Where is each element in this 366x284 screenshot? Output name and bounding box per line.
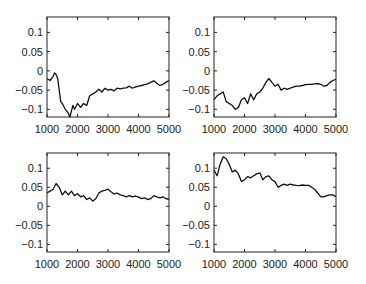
x-tick-label: 2000 bbox=[65, 258, 89, 270]
axes-frame bbox=[47, 17, 169, 117]
x-tick-label: 3000 bbox=[263, 258, 287, 270]
y-tick-label: −0.05 bbox=[15, 84, 43, 96]
y-tick-label: 0.05 bbox=[189, 181, 210, 193]
axes-frame bbox=[47, 153, 169, 252]
x-tick-label: 5000 bbox=[157, 123, 181, 135]
series-line bbox=[214, 157, 336, 197]
x-tick-label: 3000 bbox=[263, 123, 287, 135]
y-tick-label: 0.1 bbox=[195, 162, 210, 174]
y-tick-label: −0.05 bbox=[15, 219, 43, 231]
x-tick-label: 1000 bbox=[35, 123, 59, 135]
y-tick-label: −0.1 bbox=[188, 103, 210, 115]
subplot-top-left: 100020003000400050000.10.050−0.05−0.1 bbox=[15, 17, 181, 135]
y-tick-label: −0.1 bbox=[188, 238, 210, 250]
y-tick-label: 0 bbox=[37, 65, 43, 77]
x-tick-label: 3000 bbox=[96, 258, 120, 270]
axes-frame bbox=[214, 153, 336, 252]
x-tick-label: 4000 bbox=[293, 258, 317, 270]
x-tick-label: 1000 bbox=[35, 258, 59, 270]
y-tick-label: 0.05 bbox=[22, 181, 43, 193]
subplot-top-right: 100020003000400050000.10.050−0.05−0.1 bbox=[182, 17, 348, 135]
y-tick-label: −0.1 bbox=[21, 238, 43, 250]
x-tick-label: 1000 bbox=[202, 258, 226, 270]
y-tick-label: −0.1 bbox=[21, 103, 43, 115]
x-tick-label: 2000 bbox=[65, 123, 89, 135]
figure: 100020003000400050000.10.050−0.05−0.1 10… bbox=[0, 0, 366, 284]
y-tick-label: 0 bbox=[204, 65, 210, 77]
x-tick-label: 2000 bbox=[232, 258, 256, 270]
x-tick-label: 5000 bbox=[324, 258, 348, 270]
y-tick-label: 0 bbox=[37, 200, 43, 212]
x-tick-label: 1000 bbox=[202, 123, 226, 135]
axes-frame bbox=[214, 17, 336, 117]
y-tick-label: 0.1 bbox=[195, 26, 210, 38]
subplot-bottom-left: 100020003000400050000.10.050−0.05−0.1 bbox=[15, 153, 181, 270]
x-tick-label: 5000 bbox=[324, 123, 348, 135]
x-tick-label: 2000 bbox=[232, 123, 256, 135]
y-tick-label: 0.1 bbox=[28, 162, 43, 174]
series-line bbox=[47, 184, 169, 202]
y-tick-label: 0 bbox=[204, 200, 210, 212]
y-tick-label: 0.05 bbox=[189, 46, 210, 58]
x-tick-label: 5000 bbox=[157, 258, 181, 270]
y-tick-label: 0.05 bbox=[22, 46, 43, 58]
x-tick-label: 3000 bbox=[96, 123, 120, 135]
subplot-bottom-right: 100020003000400050000.10.050−0.05−0.1 bbox=[182, 153, 348, 270]
series-line bbox=[47, 73, 169, 117]
x-tick-label: 4000 bbox=[126, 258, 150, 270]
y-tick-label: −0.05 bbox=[182, 84, 210, 96]
y-tick-label: 0.1 bbox=[28, 26, 43, 38]
series-line bbox=[214, 79, 336, 110]
x-tick-label: 4000 bbox=[126, 123, 150, 135]
y-tick-label: −0.05 bbox=[182, 219, 210, 231]
x-tick-label: 4000 bbox=[293, 123, 317, 135]
